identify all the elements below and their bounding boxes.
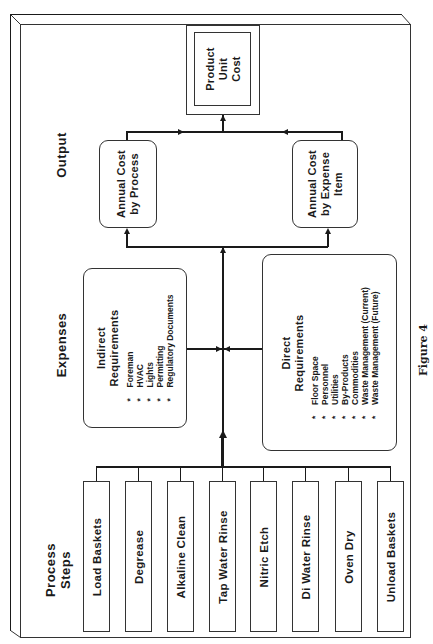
- arrow-direct-icon: [224, 346, 230, 352]
- list-item: *Waste Management (Future): [370, 287, 380, 419]
- process-tick: [263, 466, 264, 481]
- list-item: *Foreman: [125, 294, 135, 401]
- connector-split: [126, 246, 328, 248]
- arrow-indirect-icon: [216, 346, 222, 352]
- list-item: *Utilities: [330, 287, 340, 419]
- figure-caption-label: Figure 4: [417, 324, 430, 376]
- arrow-left-icon: [282, 129, 288, 135]
- header-expenses: Expenses: [46, 305, 76, 385]
- list-item: *Lights: [145, 294, 155, 401]
- process-bus: [96, 466, 391, 468]
- header-process-steps-label: Process Steps: [43, 543, 73, 597]
- list-item: *Regulatory Documents: [165, 294, 175, 401]
- process-step-alkaline-clean: Alkaline Clean: [167, 481, 194, 632]
- process-tick: [348, 466, 349, 481]
- annual-cost-by-process-label: Annual Cost by Process: [115, 150, 141, 218]
- list-item: *Permitting: [155, 294, 165, 401]
- indirect-requirements-box: Indirect Requirements *Foreman *HVAC *Li…: [83, 268, 187, 428]
- product-unit-cost-box: Product Unit Cost: [194, 32, 251, 106]
- main-thick-line: [221, 436, 224, 466]
- process-step-oven-dry: Oven Dry: [335, 481, 362, 632]
- process-tick: [390, 466, 391, 481]
- list-item: *HVAC: [135, 294, 145, 401]
- list-item: *Floor Space: [310, 287, 320, 419]
- indirect-requirements-content: Indirect Requirements *Foreman *HVAC *Li…: [95, 294, 175, 401]
- direct-requirements-list: *Floor Space *Personnel *Utilities *By-P…: [310, 287, 380, 419]
- direct-requirements-content: Direct Requirements *Floor Space *Person…: [280, 287, 380, 419]
- figure-caption: Figure 4: [414, 320, 432, 380]
- list-item: *Commodities: [350, 287, 360, 419]
- direct-requirements-box: Direct Requirements *Floor Space *Person…: [262, 254, 397, 451]
- connector-output-merge: [126, 131, 342, 133]
- process-step-tap-water-rinse: Tap Water Rinse: [209, 481, 236, 632]
- process-step-unload-baskets: Unload Baskets: [377, 481, 404, 632]
- arrow-to-process-box-icon: [124, 228, 130, 234]
- header-output: Output: [46, 125, 76, 185]
- arrow-main-top-icon: [220, 247, 226, 253]
- list-item: *Waste Management (Current): [360, 287, 370, 419]
- process-tick: [222, 466, 223, 481]
- header-output-label: Output: [54, 132, 69, 178]
- process-step-degrease: Degrease: [125, 481, 152, 632]
- list-item: *By-Products: [340, 287, 350, 419]
- arrow-to-expense-box-icon: [325, 228, 331, 234]
- process-step-nitric-etch: Nitric Etch: [250, 481, 277, 632]
- product-unit-cost-label: Product Unit Cost: [203, 47, 242, 91]
- process-tick: [96, 466, 97, 481]
- arrow-main-thick-icon: [219, 430, 227, 438]
- arrow-right-icon: [178, 129, 184, 135]
- process-step-di-water-rinse: Di Water Rinse: [292, 481, 319, 632]
- header-process-steps: Process Steps: [38, 535, 78, 605]
- process-tick: [138, 466, 139, 481]
- process-step-load-baskets: Load Baskets: [83, 481, 110, 632]
- header-expenses-label: Expenses: [54, 313, 69, 378]
- indirect-requirements-list: *Foreman *HVAC *Lights *Permitting *Regu…: [125, 294, 175, 401]
- annual-cost-by-process-box: Annual Cost by Process: [99, 140, 157, 228]
- process-tick: [305, 466, 306, 481]
- annual-cost-by-expense-label: Annual Cost by Expense Item: [306, 150, 345, 218]
- process-tick: [180, 466, 181, 481]
- arrow-to-product-icon: [220, 115, 226, 121]
- annual-cost-by-expense-box: Annual Cost by Expense Item: [292, 140, 358, 228]
- list-item: *Personnel: [320, 287, 330, 419]
